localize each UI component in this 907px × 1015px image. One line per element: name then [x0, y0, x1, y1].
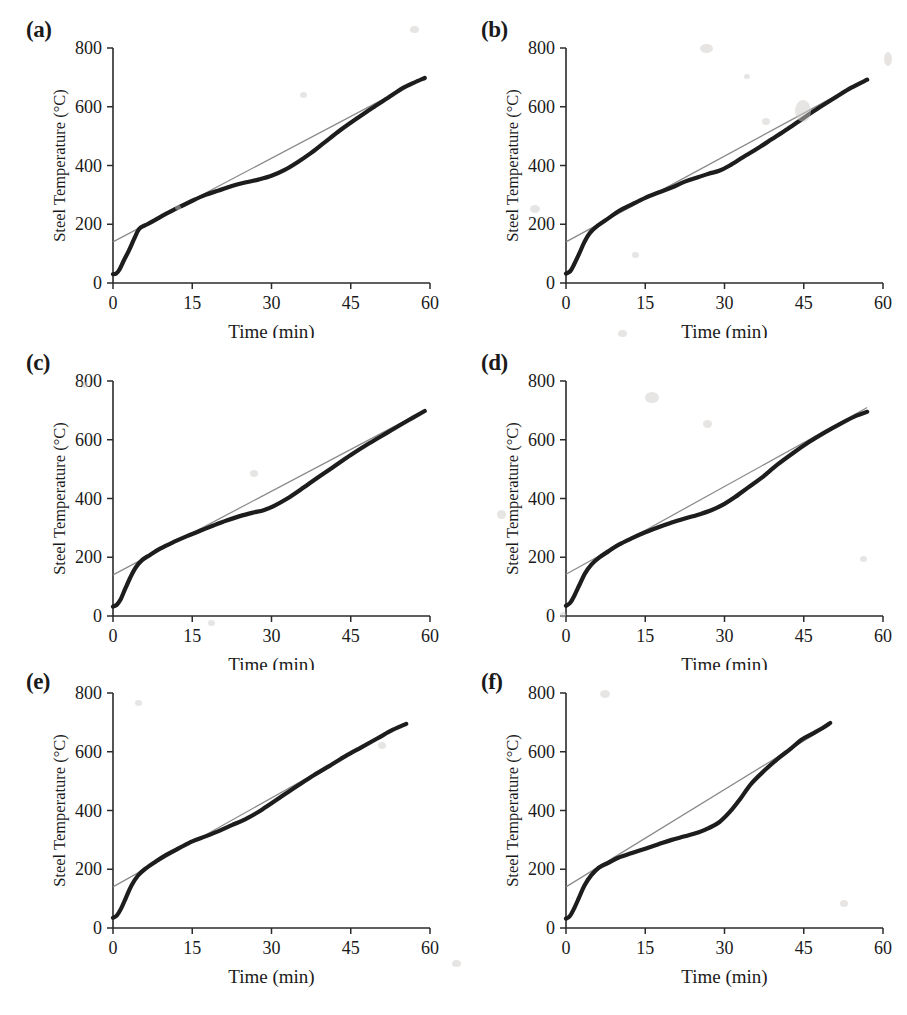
x-tick-label: 15	[636, 626, 654, 646]
plot-area: 0200400600800015304560Steel Temperature …	[453, 338, 907, 670]
x-tick-label: 0	[562, 293, 571, 313]
x-axis-title: Time (min)	[681, 321, 767, 338]
temperature-curve-series	[566, 80, 867, 274]
x-tick-label: 15	[636, 938, 654, 958]
y-tick-label: 200	[75, 214, 102, 234]
x-tick-label: 0	[562, 938, 571, 958]
x-tick-label: 15	[636, 293, 654, 313]
x-axis-title: Time (min)	[681, 966, 767, 988]
scan-artifact	[560, 612, 566, 618]
temperature-curve-series	[566, 412, 867, 606]
scan-artifact	[860, 556, 867, 562]
y-tick-label: 400	[528, 489, 555, 509]
scan-artifact	[82, 382, 88, 388]
y-tick-label: 0	[93, 273, 102, 293]
y-tick-label: 800	[75, 683, 102, 703]
y-tick-label: 0	[93, 606, 102, 626]
y-tick-label: 800	[528, 371, 555, 391]
y-tick-label: 600	[528, 742, 555, 762]
x-tick-label: 15	[183, 293, 201, 313]
axis-spines	[566, 381, 883, 616]
x-tick-label: 60	[874, 626, 892, 646]
plot-area: 0200400600800015304560Steel Temperature …	[0, 670, 453, 1015]
scan-artifact	[744, 74, 750, 79]
y-tick-label: 400	[75, 801, 102, 821]
chart-panel-c: (c)0200400600800015304560Steel Temperatu…	[0, 338, 453, 670]
scan-artifact	[645, 392, 659, 403]
x-tick-label: 60	[421, 938, 439, 958]
y-tick-label: 600	[528, 97, 555, 117]
x-tick-label: 30	[263, 626, 281, 646]
scan-artifact	[632, 252, 639, 258]
y-tick-label: 400	[528, 801, 555, 821]
figure-grid: (a)0200400600800015304560Steel Temperatu…	[0, 0, 907, 1015]
axis-spines	[113, 693, 430, 928]
chart-panel-e: (e)0200400600800015304560Steel Temperatu…	[0, 670, 453, 1015]
temperature-curve-series	[113, 411, 425, 607]
x-tick-label: 45	[795, 938, 813, 958]
y-tick-label: 800	[528, 683, 555, 703]
y-tick-label: 400	[528, 156, 555, 176]
x-tick-label: 0	[109, 626, 118, 646]
y-tick-label: 0	[546, 273, 555, 293]
chart-panel-f: (f)0200400600800015304560Steel Temperatu…	[453, 670, 907, 1015]
chart-panel-a: (a)0200400600800015304560Steel Temperatu…	[0, 0, 453, 338]
x-tick-label: 45	[342, 293, 360, 313]
scan-artifact	[618, 330, 627, 337]
y-tick-label: 0	[546, 918, 555, 938]
scan-artifact	[300, 92, 307, 98]
y-tick-label: 0	[546, 606, 555, 626]
scan-artifact	[762, 118, 770, 125]
chart-panel-b: (b)0200400600800015304560Steel Temperatu…	[453, 0, 907, 338]
scan-artifact	[530, 205, 540, 213]
y-tick-label: 600	[75, 742, 102, 762]
x-axis-title: Time (min)	[228, 321, 314, 338]
y-tick-label: 200	[75, 547, 102, 567]
plot-area: 0200400600800015304560Steel Temperature …	[453, 670, 907, 1015]
axis-spines	[113, 381, 430, 616]
x-tick-label: 60	[421, 626, 439, 646]
y-axis-title: Steel Temperature (°C)	[503, 89, 522, 242]
x-tick-label: 60	[874, 938, 892, 958]
scan-artifact	[410, 26, 419, 33]
scan-artifact	[497, 510, 506, 519]
x-axis-title: Time (min)	[228, 654, 314, 670]
axis-spines	[113, 48, 430, 283]
x-tick-label: 30	[263, 293, 281, 313]
axis-spines	[566, 48, 883, 283]
x-tick-label: 45	[342, 626, 360, 646]
x-tick-label: 60	[421, 293, 439, 313]
x-tick-label: 30	[716, 938, 734, 958]
y-tick-label: 800	[75, 38, 102, 58]
temperature-curve-series	[113, 724, 406, 918]
axis-spines	[566, 693, 883, 928]
x-tick-label: 45	[795, 626, 813, 646]
scan-artifact	[840, 900, 848, 907]
plot-area: 0200400600800015304560Steel Temperature …	[453, 0, 907, 338]
y-tick-label: 400	[75, 489, 102, 509]
x-tick-label: 15	[183, 938, 201, 958]
y-tick-label: 200	[528, 547, 555, 567]
y-tick-label: 400	[75, 156, 102, 176]
y-tick-label: 800	[528, 38, 555, 58]
y-tick-label: 200	[75, 859, 102, 879]
y-tick-label: 200	[528, 859, 555, 879]
plot-area: 0200400600800015304560Steel Temperature …	[0, 0, 453, 338]
x-tick-label: 30	[716, 293, 734, 313]
y-tick-label: 600	[75, 97, 102, 117]
scan-artifact	[378, 742, 386, 749]
scan-artifact	[452, 960, 461, 967]
temperature-curve-series	[113, 78, 425, 274]
y-axis-title: Steel Temperature (°C)	[50, 422, 69, 575]
y-tick-label: 0	[93, 918, 102, 938]
y-axis-title: Steel Temperature (°C)	[50, 89, 69, 242]
x-tick-label: 30	[716, 626, 734, 646]
scan-artifact	[703, 420, 712, 428]
x-axis-title: Time (min)	[228, 966, 314, 988]
scan-artifact	[600, 690, 610, 698]
plot-area: 0200400600800015304560Steel Temperature …	[0, 338, 453, 670]
x-tick-label: 15	[183, 626, 201, 646]
y-axis-title: Steel Temperature (°C)	[50, 734, 69, 887]
y-tick-label: 600	[75, 430, 102, 450]
y-axis-title: Steel Temperature (°C)	[503, 422, 522, 575]
